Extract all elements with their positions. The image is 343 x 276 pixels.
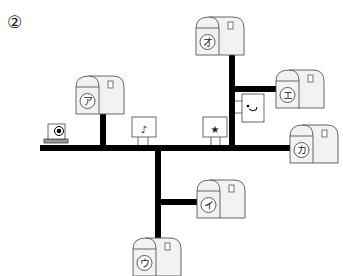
mailbox-flag-icon: [228, 22, 233, 29]
mailbox-flag-icon: [165, 243, 170, 250]
road-down: [155, 148, 161, 240]
mailbox-flag-icon: [229, 185, 234, 192]
mailbox-ka: カ: [290, 125, 338, 163]
mailbox-e: エ: [276, 70, 324, 108]
mailbox-label: カ: [297, 145, 307, 156]
mailbox-i: イ: [197, 180, 245, 218]
route-diagram: アイウエオカ ♪ ★: [0, 0, 343, 276]
landmark-camera: [44, 124, 68, 143]
mailbox-a: ア: [76, 76, 124, 114]
mailbox-label: イ: [204, 200, 214, 211]
landmark-music: ♪: [132, 117, 156, 145]
mailbox-label: オ: [203, 37, 213, 48]
star-icon: ★: [211, 124, 220, 135]
road-to-e: [232, 86, 276, 92]
music-note-icon: ♪: [141, 124, 147, 135]
road-up-right: [229, 52, 235, 148]
mailbox-label: ウ: [140, 258, 150, 269]
landmark-star: ★: [203, 117, 227, 145]
mailbox-flag-icon: [308, 75, 313, 82]
mailbox-o: オ: [196, 17, 244, 55]
mailbox-label: エ: [283, 90, 293, 101]
mailbox-flag-icon: [322, 130, 327, 137]
mailbox-u: ウ: [133, 238, 181, 276]
road-main: [40, 145, 295, 151]
mailbox-flag-icon: [108, 81, 113, 88]
mailbox-label: ア: [83, 96, 93, 107]
road-to-i: [158, 199, 198, 205]
landmark-bath: [235, 94, 264, 122]
